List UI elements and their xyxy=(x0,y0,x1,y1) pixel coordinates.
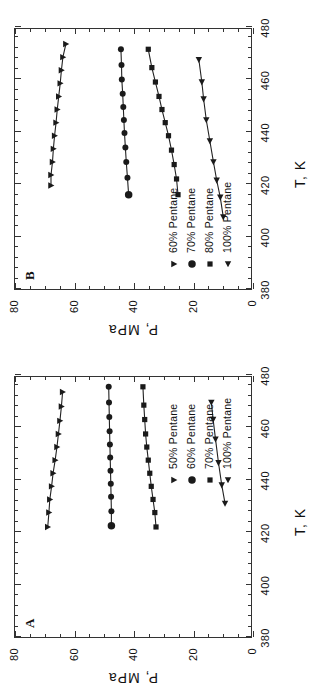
data-point xyxy=(140,384,145,389)
data-point xyxy=(207,477,212,482)
y-tick-minor xyxy=(164,634,165,638)
data-point xyxy=(108,494,114,500)
y-tick-minor xyxy=(104,29,105,33)
x-tick-minor xyxy=(248,36,252,37)
data-point xyxy=(225,477,231,483)
x-tick-major xyxy=(15,374,21,375)
data-point xyxy=(141,403,146,408)
y-tick-label: 60 xyxy=(68,648,80,696)
x-tick-minor xyxy=(15,416,19,417)
y-tick-minor xyxy=(238,29,239,33)
data-point xyxy=(200,96,206,102)
x-tick-minor xyxy=(15,605,19,606)
x-tick-label: 440 xyxy=(259,471,271,491)
x-tick-minor xyxy=(15,489,19,490)
y-tick-minor xyxy=(45,29,46,33)
x-tick-minor xyxy=(15,246,19,247)
x-tick-major xyxy=(15,479,21,480)
legend-label: 70% Pentane xyxy=(185,188,197,253)
x-tick-minor xyxy=(15,110,19,111)
data-point xyxy=(119,62,125,68)
x-tick-minor xyxy=(248,510,252,511)
data-point xyxy=(121,117,127,123)
x-tick-minor xyxy=(15,458,19,459)
x-tick-label: 420 xyxy=(259,175,271,195)
data-point xyxy=(125,191,132,199)
x-tick-minor xyxy=(15,552,19,553)
legend-b: 60% Pentane70% Pentane80% Pentane100% Pe… xyxy=(166,152,250,272)
data-point xyxy=(146,458,151,463)
y-tick-minor xyxy=(45,286,46,290)
legend-marker xyxy=(220,256,236,272)
legend-label: 60% Pentane xyxy=(185,404,197,469)
x-tick-minor xyxy=(248,605,252,606)
y-tick-minor xyxy=(208,634,209,638)
panel-a: T, K P, MPa A 50% Pentane60% Pentane70% … xyxy=(0,348,328,696)
y-tick-minor xyxy=(119,377,120,381)
data-point xyxy=(225,261,231,267)
data-point xyxy=(156,94,161,99)
x-tick-minor xyxy=(248,489,252,490)
data-point xyxy=(199,79,205,85)
x-tick-major xyxy=(15,236,21,237)
y-tick-major xyxy=(194,632,195,638)
y-tick-minor xyxy=(179,634,180,638)
y-tick-minor xyxy=(60,377,61,381)
y-tick-major xyxy=(134,632,135,638)
data-point xyxy=(150,497,155,502)
x-tick-minor xyxy=(15,563,19,564)
y-tick-label: 40 xyxy=(127,648,139,696)
y-tick-label: 60 xyxy=(68,300,80,348)
x-tick-major xyxy=(15,131,21,132)
data-point xyxy=(63,41,69,47)
y-tick-minor xyxy=(30,29,31,33)
x-tick-label: 480 xyxy=(259,18,271,38)
legend-label: 100% Pentane xyxy=(221,398,233,469)
data-point xyxy=(106,400,112,406)
data-point xyxy=(153,79,158,84)
y-tick-major xyxy=(194,29,195,35)
x-tick-minor xyxy=(15,120,19,121)
y-tick-minor xyxy=(119,286,120,290)
y-tick-label: 20 xyxy=(187,300,199,348)
x-tick-minor xyxy=(15,615,19,616)
legend-label: 60% Pentane xyxy=(167,188,179,253)
x-tick-minor xyxy=(248,594,252,595)
data-point xyxy=(108,508,114,514)
x-tick-minor xyxy=(15,141,19,142)
y-tick-minor xyxy=(149,29,150,33)
series-line xyxy=(51,44,66,185)
x-tick-major xyxy=(15,531,21,532)
x-tick-label: 400 xyxy=(259,576,271,596)
data-point xyxy=(163,120,168,125)
data-point xyxy=(144,444,149,449)
x-tick-minor xyxy=(15,194,19,195)
legend-a: 50% Pentane60% Pentane70% Pentane100% Pe… xyxy=(166,368,250,488)
y-tick-major xyxy=(134,29,135,35)
y-tick-minor xyxy=(223,286,224,290)
data-point xyxy=(166,133,171,138)
x-tick-minor xyxy=(15,89,19,90)
x-tick-minor xyxy=(248,278,252,279)
y-tick-major xyxy=(15,632,16,638)
y-tick-minor xyxy=(179,29,180,33)
panel-letter-a: A xyxy=(22,619,38,628)
x-tick-minor xyxy=(248,120,252,121)
legend-marker xyxy=(166,472,182,488)
x-tick-minor xyxy=(15,152,19,153)
data-point xyxy=(143,431,148,436)
figure-canvas: T, K P, MPa B 60% Pentane70% Pentane80% … xyxy=(0,0,328,696)
x-tick-minor xyxy=(15,395,19,396)
data-point xyxy=(108,481,114,487)
x-tick-minor xyxy=(248,68,252,69)
x-tick-minor xyxy=(15,521,19,522)
x-tick-label: 380 xyxy=(259,280,271,300)
y-tick-minor xyxy=(104,634,105,638)
x-tick-minor xyxy=(248,47,252,48)
x-tick-minor xyxy=(15,173,19,174)
y-tick-major xyxy=(134,284,135,290)
legend-marker xyxy=(202,472,218,488)
x-tick-major xyxy=(246,636,252,637)
y-tick-major xyxy=(253,29,254,35)
data-point xyxy=(107,428,113,434)
